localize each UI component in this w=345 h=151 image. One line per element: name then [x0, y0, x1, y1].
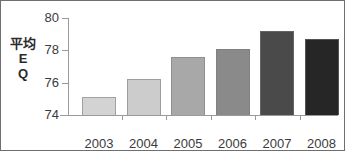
y-tick-label: 76 [45, 74, 59, 91]
y-axis-title: 平均 E Q [10, 36, 36, 81]
x-axis-line [60, 115, 338, 116]
bar-2006 [216, 49, 250, 115]
x-tick-mark [300, 115, 301, 120]
bar-2007 [260, 31, 294, 115]
y-axis-title-line-2: E [10, 51, 36, 66]
x-tick-mark [255, 115, 256, 120]
y-tick-mark [62, 115, 68, 116]
y-tick-mark [62, 83, 68, 84]
bar-2005 [171, 57, 205, 115]
x-axis-label-2003: 2003 [77, 136, 121, 151]
y-tick-mark [62, 50, 68, 51]
x-axis-label-2008: 2008 [300, 136, 344, 151]
y-tick-label: 74 [45, 106, 59, 123]
bar-2003 [82, 97, 116, 115]
y-tick-label: 78 [45, 41, 59, 58]
x-tick-mark [122, 115, 123, 120]
chart-screenshot: 平均 E Q 74767880 200320042005200620072008 [0, 0, 345, 151]
x-tick-mark [166, 115, 167, 120]
y-axis-title-line-1: 平均 [10, 36, 36, 51]
y-tick-label: 80 [45, 9, 59, 26]
plot-area: 74767880 200320042005200620072008 [68, 14, 338, 115]
x-axis-label-2006: 2006 [211, 136, 255, 151]
x-tick-mark [211, 115, 212, 120]
x-axis-label-2007: 2007 [255, 136, 299, 151]
bar-2008 [305, 39, 339, 115]
x-axis-label-2005: 2005 [166, 136, 210, 151]
bar-2004 [127, 79, 161, 115]
x-axis-label-2004: 2004 [122, 136, 166, 151]
y-axis-line [68, 18, 69, 115]
y-tick-mark [62, 18, 68, 19]
y-axis-title-line-3: Q [10, 66, 36, 81]
